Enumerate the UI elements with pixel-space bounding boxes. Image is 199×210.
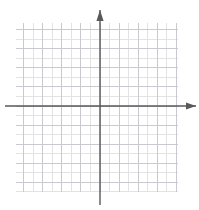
coordinate-plane-svg (0, 0, 199, 210)
screenshot-root (0, 0, 199, 210)
coordinate-plane (0, 0, 199, 210)
